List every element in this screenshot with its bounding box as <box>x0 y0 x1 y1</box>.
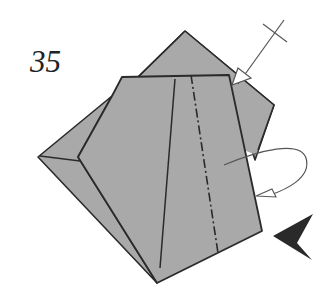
front-panel <box>78 75 262 283</box>
push-arrow-icon <box>232 20 287 85</box>
view-direction-arrow-icon <box>273 214 313 260</box>
origami-diagram <box>0 0 334 295</box>
